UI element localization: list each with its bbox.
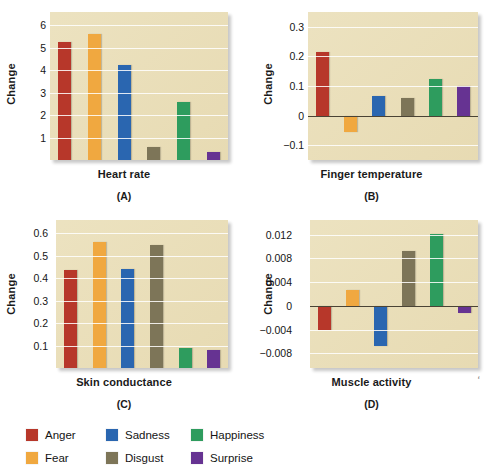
panel-d-bars — [310, 220, 478, 368]
panel-c-y-ticks: 0.60.50.40.30.20.1 — [14, 220, 48, 368]
panel-d-x-title: Muscle activity — [248, 376, 495, 388]
legend-item-happiness: Happiness — [191, 429, 291, 441]
bar-happiness — [430, 234, 443, 306]
bar-fear — [93, 242, 106, 368]
bar-anger — [58, 42, 71, 160]
gridline — [50, 93, 228, 94]
legend-swatch-sadness — [106, 429, 118, 441]
panel-b-plot-area — [308, 12, 478, 160]
legend-swatch-happiness — [191, 429, 203, 441]
bar-surprise — [207, 152, 220, 160]
gridline — [56, 346, 228, 347]
gridline — [50, 70, 228, 71]
bar-happiness — [429, 79, 442, 116]
legend-grid: AngerSadnessHappinessFearDisgustSurprise — [26, 423, 291, 469]
y-tick-label: 4 — [40, 65, 46, 76]
y-tick-label: 0.004 — [266, 277, 292, 288]
panel-c-label: (C) — [0, 398, 248, 410]
bar-disgust — [147, 147, 160, 160]
gridline — [50, 138, 228, 139]
gridline — [56, 301, 228, 302]
y-tick-label: −0.1 — [283, 140, 304, 151]
gridline — [308, 145, 478, 146]
gridline — [50, 25, 228, 26]
bar-disgust — [150, 245, 163, 368]
legend-item-anger: Anger — [26, 429, 106, 441]
gridline — [50, 115, 228, 116]
legend-item-fear: Fear — [26, 452, 106, 464]
bar-surprise — [207, 350, 220, 368]
y-tick-label: 5 — [40, 43, 46, 54]
panel-b-x-title: Finger temperature — [248, 168, 495, 180]
legend-label: Happiness — [210, 429, 264, 441]
bar-sadness — [374, 306, 387, 346]
panel-a-y-ticks: 654321 — [12, 12, 46, 160]
panel-d-y-ticks: 0.0120.0080.0040−0.004−0.008 — [258, 220, 292, 368]
zero-line — [310, 306, 478, 307]
bar-happiness — [177, 102, 190, 160]
bar-fear — [344, 116, 357, 132]
y-tick-label: 2 — [40, 110, 46, 121]
panel-a-heart-rate: Change 654321 Heart rate (A) — [0, 0, 248, 210]
legend-label: Disgust — [125, 452, 163, 464]
y-tick-label: 0.4 — [33, 273, 48, 284]
gridline — [310, 353, 478, 354]
legend-label: Fear — [45, 452, 69, 464]
y-tick-label: 0.1 — [33, 340, 48, 351]
bar-anger — [64, 270, 77, 368]
y-tick-label: 0.2 — [289, 51, 304, 62]
bar-fear — [88, 34, 101, 160]
gridline — [56, 233, 228, 234]
panel-a-x-title: Heart rate — [0, 168, 248, 180]
bar-fear — [346, 290, 359, 306]
panel-a-label: (A) — [0, 190, 248, 202]
y-tick-label: 0.3 — [289, 22, 304, 33]
panel-b-finger-temperature: Change 0.30.20.10−0.1 Finger temperature… — [248, 0, 495, 210]
bar-anger — [316, 52, 329, 116]
y-tick-label: 0.012 — [266, 230, 292, 241]
panel-d-muscle-activity: Change 0.0120.0080.0040−0.004−0.008 Musc… — [248, 210, 495, 418]
panel-a-plot-area — [50, 12, 228, 160]
legend-label: Sadness — [125, 429, 170, 441]
gridline — [56, 323, 228, 324]
legend-swatch-fear — [26, 452, 38, 464]
bar-disgust — [401, 98, 414, 116]
panel-c-skin-conductance: Change 0.60.50.40.30.20.1 Skin conductan… — [0, 210, 248, 418]
bar-anger — [318, 306, 331, 330]
legend-swatch-anger — [26, 429, 38, 441]
zero-line — [308, 116, 478, 117]
legend-label: Anger — [45, 429, 76, 441]
y-tick-label: 3 — [40, 87, 46, 98]
panel-b-label: (B) — [248, 190, 495, 202]
panel-b-y-ticks: 0.30.20.10−0.1 — [270, 12, 304, 160]
figure-emotion-physiology: Change 654321 Heart rate (A) Change 0.30… — [0, 0, 495, 471]
legend-swatch-surprise — [191, 452, 203, 464]
y-tick-label: 0 — [286, 301, 292, 312]
gridline — [310, 330, 478, 331]
y-tick-label: 0.008 — [266, 253, 292, 264]
gridline — [308, 56, 478, 57]
gridline — [50, 48, 228, 49]
panel-c-x-title: Skin conductance — [0, 376, 248, 388]
y-tick-label: 0.6 — [33, 228, 48, 239]
bar-surprise — [457, 86, 470, 116]
y-tick-label: 1 — [40, 132, 46, 143]
gridline — [310, 282, 478, 283]
y-tick-label: 0 — [298, 110, 304, 121]
legend-swatch-disgust — [106, 452, 118, 464]
bar-happiness — [179, 348, 192, 368]
legend: AngerSadnessHappinessFearDisgustSurprise — [0, 420, 495, 471]
y-tick-label: 0.2 — [33, 318, 48, 329]
bar-sadness — [118, 65, 131, 160]
y-tick-label: 0.3 — [33, 295, 48, 306]
gridline — [56, 256, 228, 257]
legend-item-disgust: Disgust — [106, 452, 191, 464]
bar-sadness — [121, 269, 134, 368]
gridline — [310, 258, 478, 259]
gridline — [308, 27, 478, 28]
gridline — [56, 278, 228, 279]
y-tick-label: −0.008 — [260, 348, 292, 359]
legend-item-sadness: Sadness — [106, 429, 191, 441]
gridline — [308, 86, 478, 87]
panel-d-plot-area — [310, 220, 478, 368]
